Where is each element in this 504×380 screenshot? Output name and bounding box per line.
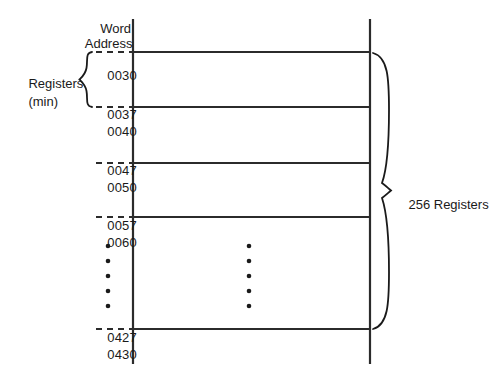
address-value: 0040: [107, 124, 137, 139]
ellipsis-right-dot: [247, 289, 252, 294]
total-registers-brace: [373, 53, 391, 329]
address-value: 0060: [107, 235, 137, 250]
vertical-rules: [133, 19, 370, 364]
total-registers-text: 256 Registers: [408, 197, 488, 212]
row-separator-lines: [133, 52, 370, 329]
ellipsis-left-dot: [106, 304, 111, 309]
total-registers-label: 256 Registers: [394, 183, 489, 228]
ellipsis-left-dot: [106, 289, 111, 294]
registers-min-text: (min): [28, 94, 58, 109]
address-value: 0430: [107, 347, 137, 362]
ellipsis-right-dot: [247, 304, 252, 309]
address-label-0430: 0430: [92, 333, 137, 378]
address-value: 0050: [107, 180, 137, 195]
address-value: 0030: [107, 68, 137, 83]
ellipsis-right-dot: [247, 244, 252, 249]
memory-map-diagram: Word Address Registers (min) 0030 0037 0…: [0, 0, 504, 380]
column-header-address-label: Address: [85, 36, 133, 51]
ellipsis-right-dot: [247, 259, 252, 264]
ellipsis-right-dot: [247, 274, 252, 279]
registers-min-label-line2: (min): [14, 80, 58, 125]
address-label-0060: 0060: [92, 221, 137, 266]
ellipsis-left-dot: [106, 274, 111, 279]
